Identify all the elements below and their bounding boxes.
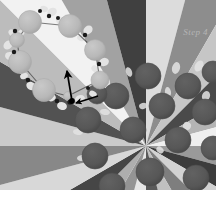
- illustration-canvas: Step 4: [0, 0, 216, 200]
- step-label: Step 4: [183, 27, 208, 37]
- ring-linker-9: [13, 29, 17, 33]
- ring-linker-8: [12, 50, 16, 54]
- ring-linker-10: [38, 9, 42, 13]
- ring-linker-3: [97, 62, 101, 66]
- cluster-particle-6: [75, 107, 101, 133]
- ring-bead-2: [85, 40, 106, 61]
- ring-bead-3: [91, 71, 109, 89]
- cluster-particle-8: [165, 127, 191, 153]
- ring-linker-2: [83, 33, 87, 37]
- ring-linker-1: [56, 16, 60, 20]
- ring-linker-4: [86, 86, 90, 90]
- cluster-particle-12: [183, 165, 209, 191]
- cluster-particle-0: [135, 63, 161, 89]
- ring-linker-0: [47, 14, 51, 18]
- ring-bead-0: [19, 11, 42, 34]
- ring-bead-5: [33, 79, 56, 102]
- ring-bead-7: [10, 33, 25, 48]
- cluster-particle-10: [82, 143, 108, 169]
- cluster-particle-1: [175, 73, 201, 99]
- ring-linker-6: [55, 99, 59, 103]
- ring-bead-1: [59, 15, 82, 38]
- ring-bead-6: [9, 51, 32, 74]
- cluster-particle-7: [120, 117, 146, 143]
- cluster-particle-11: [136, 158, 164, 186]
- ring-linker-7: [26, 78, 30, 82]
- arrow-origin-dot: [69, 98, 75, 104]
- cluster-particle-4: [149, 93, 175, 119]
- cluster-particle-5: [192, 99, 216, 125]
